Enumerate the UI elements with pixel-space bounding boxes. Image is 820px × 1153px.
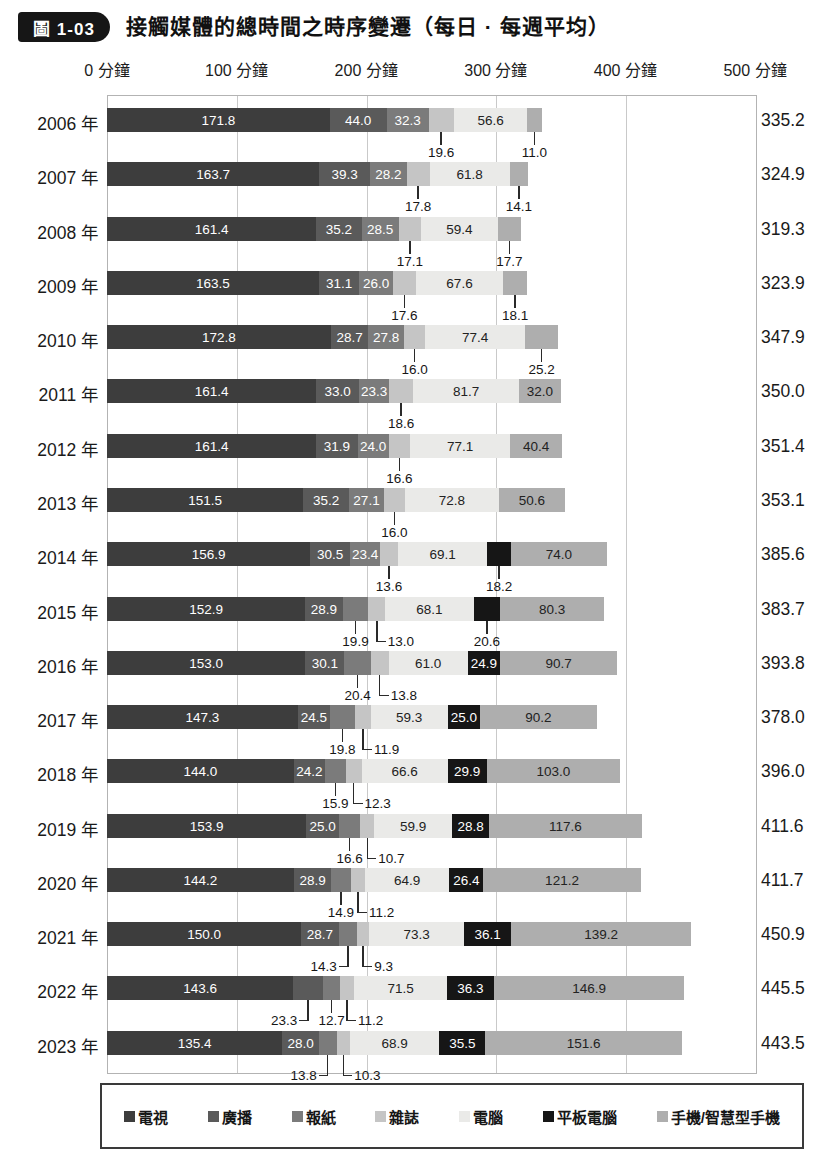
segment-value-label: 25.0 (451, 710, 477, 725)
segment-magazine (407, 162, 430, 186)
callout-line (377, 641, 386, 643)
segment-newspaper (339, 922, 358, 946)
bar-row-2023: 135.428.068.935.5151.6 (107, 1031, 755, 1055)
segment-value-label: 28.9 (311, 602, 337, 617)
callout-value-label: 10.3 (354, 1068, 380, 1083)
callout-line (339, 966, 348, 968)
segment-value-label: 144.2 (184, 873, 218, 888)
segment-computer: 61.0 (389, 651, 468, 675)
segment-value-label: 135.4 (178, 1036, 212, 1051)
segment-radio: 28.9 (305, 597, 342, 621)
callout-value-label: 20.4 (344, 688, 370, 703)
segment-mobile: 139.2 (511, 922, 691, 946)
legend-item-tablet: 平板電腦 (543, 1106, 617, 1127)
segment-tablet: 29.9 (448, 759, 487, 783)
callout-line (367, 858, 376, 860)
segment-tv: 172.8 (107, 325, 331, 349)
segment-value-label: 28.8 (457, 819, 483, 834)
callout-line (417, 186, 419, 199)
callout-value-label: 25.2 (528, 362, 554, 377)
legend-swatch-magazine (375, 1111, 386, 1122)
segment-value-label: 24.9 (471, 656, 497, 671)
legend-swatch-radio (208, 1111, 219, 1122)
segment-value-label: 156.9 (192, 547, 226, 562)
figure-number-badge: 圖 1-03 (18, 12, 110, 42)
year-label: 2014 年 (0, 544, 98, 569)
segment-value-label: 28.7 (336, 330, 362, 345)
callout-line (354, 803, 363, 805)
segment-value-label: 26.4 (453, 873, 479, 888)
segment-newspaper: 23.4 (350, 542, 380, 566)
total-label: 445.5 (761, 978, 805, 999)
callout-line (518, 186, 520, 199)
total-label: 323.9 (761, 273, 805, 294)
segment-mobile (510, 162, 528, 186)
segment-value-label: 56.6 (477, 113, 503, 128)
segment-computer: 66.6 (362, 759, 448, 783)
segment-value-label: 81.7 (453, 384, 479, 399)
bar-row-2020: 144.228.964.926.4121.2 (107, 868, 755, 892)
segment-value-label: 90.2 (525, 710, 551, 725)
callout-value-label: 18.2 (486, 579, 512, 594)
segment-value-label: 35.2 (313, 493, 339, 508)
callout-value-label: 11.2 (369, 905, 394, 920)
segment-value-label: 150.0 (187, 927, 221, 942)
callout-line (299, 1020, 308, 1022)
segment-value-label: 44.0 (345, 113, 371, 128)
bar-row-2016: 153.030.161.024.990.7 (107, 651, 755, 675)
segment-value-label: 24.5 (301, 710, 327, 725)
callout-value-label: 16.0 (401, 362, 427, 377)
segment-magazine (389, 379, 413, 403)
callout-value-label: 13.8 (290, 1068, 316, 1083)
segment-tablet (474, 597, 501, 621)
total-label: 351.4 (761, 436, 805, 457)
callout-line (307, 1000, 309, 1021)
segment-mobile: 32.0 (519, 379, 560, 403)
callout-line (346, 1000, 348, 1021)
callout-line (400, 403, 402, 416)
segment-tablet: 36.1 (464, 922, 511, 946)
segment-tablet: 25.0 (448, 705, 480, 729)
callout-line (327, 1055, 329, 1076)
segment-radio: 24.2 (294, 759, 325, 783)
segment-radio: 44.0 (330, 108, 387, 132)
segment-radio: 39.3 (319, 162, 370, 186)
segment-magazine (404, 325, 425, 349)
segment-magazine (340, 976, 355, 1000)
callout-line (399, 458, 401, 471)
bar-row-2022: 143.671.536.3146.9 (107, 976, 755, 1000)
segment-computer: 68.9 (350, 1031, 439, 1055)
bar-row-2008: 161.435.228.559.4 (107, 217, 755, 241)
callout-line (355, 621, 357, 634)
segment-computer: 67.6 (416, 271, 504, 295)
segment-tablet: 28.8 (452, 814, 489, 838)
segment-value-label: 40.4 (523, 439, 549, 454)
segment-computer: 59.3 (371, 705, 448, 729)
segment-magazine (355, 705, 370, 729)
segment-value-label: 59.9 (400, 819, 426, 834)
legend-label: 電腦 (473, 1106, 503, 1127)
segment-value-label: 146.9 (572, 981, 606, 996)
callout-line (363, 749, 372, 751)
segment-computer: 81.7 (413, 379, 519, 403)
year-label: 2018 年 (0, 761, 98, 786)
year-label: 2013 年 (0, 490, 98, 515)
segment-tv: 152.9 (107, 597, 305, 621)
segment-newspaper (325, 759, 346, 783)
segment-value-label: 35.5 (449, 1036, 475, 1051)
segment-mobile: 90.7 (500, 651, 618, 675)
segment-magazine (371, 651, 389, 675)
segment-magazine (399, 217, 421, 241)
segment-value-label: 36.1 (474, 927, 500, 942)
year-label: 2012 年 (0, 436, 98, 461)
segment-value-label: 152.9 (189, 602, 223, 617)
total-label: 378.0 (761, 707, 805, 728)
segment-value-label: 59.4 (446, 222, 472, 237)
total-label: 324.9 (761, 164, 805, 185)
segment-value-label: 25.0 (310, 819, 336, 834)
callout-value-label: 11.9 (374, 742, 399, 757)
segment-newspaper (339, 814, 361, 838)
callout-line (362, 729, 364, 750)
segment-tv: 153.0 (107, 651, 305, 675)
legend-label: 報紙 (306, 1106, 336, 1127)
